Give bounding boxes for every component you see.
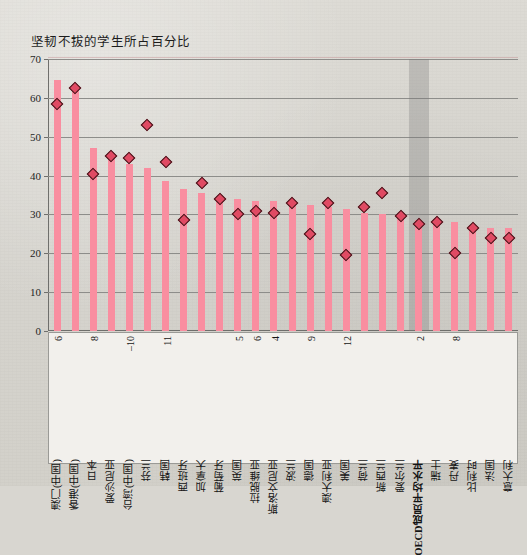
x-axis-category-label: 新西兰 [377, 459, 388, 492]
y-axis-tick-label: 20 [30, 247, 41, 259]
gridline [48, 253, 518, 254]
y-axis-tick-mark [44, 253, 48, 254]
gridline [48, 137, 518, 138]
x-axis-category-label: 英国 [233, 459, 244, 481]
category-annotation-value: –10 [125, 336, 136, 351]
x-axis-category-label: 台湾(中国) [124, 459, 135, 510]
y-axis-tick-label: 0 [36, 325, 42, 337]
y-axis-tick-label: 10 [30, 286, 41, 298]
y-axis-tick-label: 60 [30, 92, 41, 104]
bar [108, 156, 115, 331]
category-annotation-value: 8 [451, 336, 462, 341]
y-axis-tick-mark [44, 214, 48, 215]
category-annotation-value: 11 [162, 336, 173, 346]
category-annotation-value: 8 [89, 336, 100, 341]
category-annotation-value: 2 [415, 336, 426, 341]
bar [433, 222, 440, 331]
y-axis-tick-mark [44, 59, 48, 60]
bar [415, 220, 422, 331]
chart-title: 坚韧不拔的学生所占百分比 [31, 31, 191, 50]
gridline [48, 176, 518, 177]
data-point-marker [141, 119, 154, 132]
x-axis-category-label: 比利时 [468, 459, 479, 492]
x-axis-category-label: 德国 [305, 459, 316, 481]
gridline [48, 98, 518, 99]
y-axis-line [48, 59, 49, 331]
bar [144, 168, 151, 331]
y-axis-tick-mark [44, 98, 48, 99]
bar [307, 205, 314, 331]
y-axis-tick-mark [44, 176, 48, 177]
x-axis-category-label: 意大利 [504, 459, 515, 492]
y-axis-tick-label: 50 [30, 131, 41, 143]
x-axis-category-label: 爱沙尼亚 [106, 459, 117, 503]
bar [180, 189, 187, 331]
gridline [48, 292, 518, 293]
x-axis-category-label: 荷兰 [359, 459, 370, 481]
x-axis-category-label: 瑞士 [432, 459, 443, 481]
bar [126, 164, 133, 331]
category-annotation-value: 6 [252, 336, 263, 341]
gridline [48, 59, 518, 60]
bar [198, 193, 205, 331]
x-axis-category-label: 法国 [486, 459, 497, 481]
x-axis-category-label: OECD成员平均水平 [414, 459, 425, 555]
plot-area: 010203040506070 [48, 59, 518, 331]
bar [469, 226, 476, 331]
x-axis-category-label: 丹麦 [450, 459, 461, 481]
bar [270, 201, 277, 331]
x-axis-label-panel: 澳门(中国)香港(中国)日本爱沙尼亚台湾(中国)芬兰韩国西班牙加拿大葡萄牙英国拉… [48, 332, 518, 464]
x-axis-category-label: 爱尔兰 [396, 459, 407, 492]
bar [252, 201, 259, 331]
y-axis-tick-label: 40 [30, 170, 41, 182]
category-annotation-value: 9 [306, 336, 317, 341]
bar [162, 181, 169, 331]
bar [325, 207, 332, 331]
bar [397, 216, 404, 331]
category-annotation-value: 4 [270, 336, 281, 341]
x-axis-category-label: 西班牙 [179, 459, 190, 492]
y-axis-tick-mark [44, 137, 48, 138]
data-point-marker [376, 187, 389, 200]
bar [361, 213, 368, 332]
y-axis-tick-mark [44, 292, 48, 293]
data-point-marker [195, 177, 208, 190]
y-axis-tick-label: 70 [30, 53, 41, 65]
category-annotation-value: 5 [234, 336, 245, 341]
x-axis-category-label: 美国 [341, 459, 352, 481]
x-axis-category-label: 日本 [88, 459, 99, 481]
bar [451, 222, 458, 331]
category-annotation-value: 12 [342, 336, 353, 346]
category-annotation-value: 6 [53, 336, 64, 341]
bar [54, 80, 61, 331]
x-axis-category-label: 香港(中国) [70, 459, 81, 510]
x-axis-category-label: 澳大利亚 [323, 459, 334, 503]
bar [379, 214, 386, 331]
x-axis-category-label: 斯洛文尼亚 [269, 459, 280, 514]
x-axis-category-label: 加拿大 [197, 459, 208, 492]
y-axis-tick-label: 30 [30, 208, 41, 220]
gridline [48, 214, 518, 215]
scan-artifact-line [48, 57, 518, 58]
x-axis-category-label: 波兰 [287, 459, 298, 481]
data-point-marker [159, 156, 172, 169]
bar [289, 203, 296, 331]
bar [216, 197, 223, 331]
x-axis-category-label: 葡萄牙 [215, 459, 226, 492]
x-axis-category-label: 拉脱维亚 [251, 459, 262, 503]
x-axis-category-label: 澳门(中国) [52, 459, 63, 510]
x-axis-category-label: 芬兰 [142, 459, 153, 481]
x-axis-category-label: 韩国 [161, 459, 172, 481]
bar [343, 209, 350, 331]
bar [72, 88, 79, 331]
x-axis-baseline [48, 330, 518, 331]
data-point-marker [358, 200, 371, 213]
data-point-marker [123, 152, 136, 165]
